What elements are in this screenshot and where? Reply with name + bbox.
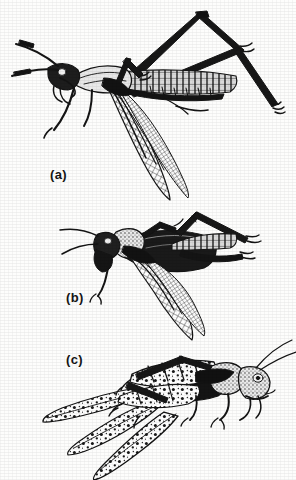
figure-label-c: (c) — [66, 352, 83, 367]
figure-label-a: (a) — [50, 167, 67, 182]
figure-label-b: (b) — [66, 290, 84, 305]
plate-artwork — [0, 0, 296, 480]
illustration-plate: (a) (b) (c) — [0, 0, 296, 480]
